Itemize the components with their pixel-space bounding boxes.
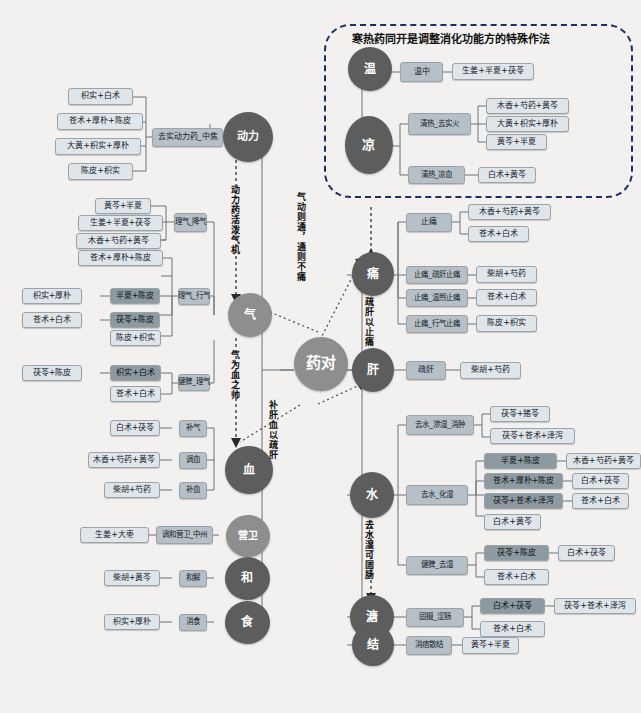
relation-label-dongli-qi: 动力药活泼气机 [230, 185, 239, 255]
leaf-box[interactable]: 苍术+厚朴+陈皮 [78, 250, 163, 266]
category-box-xiaoshi[interactable]: 消食 [179, 614, 207, 631]
category-box-qushui-huashi[interactable]: 去水_化湿 [406, 485, 468, 505]
category-box-xiaopi-sanjie[interactable]: 消痞散结 [406, 636, 452, 655]
node-wen[interactable]: 温 [348, 47, 392, 91]
category-box-qushui-shenshi[interactable]: 去水_渗湿_消肿 [406, 415, 474, 435]
leaf-box[interactable]: 白术+茯苓 [572, 473, 629, 489]
category-box-qingre-shihuo[interactable]: 清热_去实火 [408, 113, 471, 135]
leaf-box[interactable]: 苍术+白术 [110, 386, 161, 402]
leaf-box[interactable]: 黄芩+半夏 [462, 637, 519, 654]
category-box-buxue[interactable]: 补血 [179, 482, 207, 499]
special-method-group-title: 寒热药同开是调整消化功能方的特殊作法 [352, 30, 550, 46]
node-shi[interactable]: 食 [225, 601, 270, 644]
relation-label-shugan-zhitong: 疏肝以止痛 [364, 297, 373, 347]
node-qi[interactable]: 气 [228, 293, 272, 337]
leaf-box[interactable]: 生姜+半夏+茯苓 [78, 215, 163, 231]
category-box-hejie[interactable]: 和解 [179, 570, 207, 587]
leaf-box[interactable]: 陈皮+枳实 [68, 163, 133, 180]
leaf-box[interactable]: 茯苓+苍术+泽泻 [490, 428, 575, 444]
leaf-box[interactable]: 苍术+白术 [572, 493, 629, 509]
category-box-zhitong-shugan[interactable]: 止痛_疏肝止痛 [406, 266, 468, 284]
leaf-box[interactable]: 茯苓+苍术+泽泻 [484, 493, 563, 509]
category-box-gushe-sechang[interactable]: 固摄_涩肠 [406, 608, 464, 627]
leaf-box[interactable]: 木香+芍药+黄芩 [468, 204, 551, 220]
node-yingwei[interactable]: 营卫 [226, 515, 270, 557]
leaf-box[interactable]: 苍术+厚朴+陈皮 [484, 473, 563, 489]
category-box-jianpi-liqi[interactable]: 健脾_理气 [178, 374, 210, 391]
leaf-box[interactable]: 白术+黄芩 [484, 514, 541, 530]
leaf-box[interactable]: 白术+黄芩 [478, 167, 536, 183]
category-box-liqi-xingqi[interactable]: 理气_行气 [178, 288, 210, 305]
leaf-box[interactable]: 苍术+白术 [468, 226, 529, 242]
category-box-zhitong[interactable]: 止痛 [406, 213, 452, 232]
leaf-box[interactable]: 大黄+枳实+厚朴 [486, 116, 569, 132]
leaf-box[interactable]: 枳实+厚朴 [22, 288, 82, 304]
node-xue[interactable]: 血 [225, 446, 273, 494]
leaf-box[interactable]: 陈皮+枳实 [110, 330, 161, 346]
leaf-box[interactable]: 陈皮+枳实 [476, 315, 537, 332]
node-shui[interactable]: 水 [350, 472, 394, 518]
leaf-box[interactable]: 柴胡+芍药 [476, 266, 537, 283]
leaf-box[interactable]: 柴胡+芍药 [460, 362, 521, 379]
leaf-box[interactable]: 茯苓+猪苓 [490, 406, 550, 422]
leaf-box[interactable]: 半夏+陈皮 [110, 288, 160, 304]
leaf-box[interactable]: 茯苓+苍术+泽泻 [554, 598, 636, 614]
leaf-box[interactable]: 枳实+白术 [110, 365, 161, 381]
category-box-qushi-dongliyao[interactable]: 去实动力药_中焦 [152, 128, 223, 147]
relation-label-qidong-tong: 气动则通，通则不痛 [296, 192, 305, 282]
node-dongli[interactable]: 动力 [223, 112, 273, 162]
node-liang[interactable]: 凉 [345, 116, 393, 174]
node-jie[interactable]: 结 [352, 624, 394, 666]
leaf-box[interactable]: 黄芩+半夏 [486, 134, 547, 150]
leaf-box[interactable]: 木香+芍药+黄芩 [486, 98, 569, 114]
node-he[interactable]: 和 [225, 557, 270, 600]
leaf-box[interactable]: 苍术+白术 [22, 312, 82, 328]
leaf-box[interactable]: 木香+芍药+黄芩 [88, 452, 160, 468]
leaf-box[interactable]: 大黄+枳实+厚朴 [55, 138, 141, 155]
category-box-wenzhong[interactable]: 温中 [400, 62, 443, 82]
leaf-box[interactable]: 生姜+大枣 [80, 527, 149, 543]
leaf-box[interactable]: 枳实+厚朴 [104, 614, 160, 630]
leaf-box[interactable]: 黄芩+半夏 [95, 198, 151, 214]
leaf-box[interactable]: 柴胡+芍药 [104, 482, 160, 498]
leaf-box[interactable]: 茯苓+陈皮 [110, 312, 160, 328]
category-box-jianpi-qushi[interactable]: 健脾_去湿 [406, 556, 468, 575]
leaf-box[interactable]: 枳实+白术 [68, 88, 133, 105]
category-box-qingre-liangxue[interactable]: 清热_凉血 [408, 166, 465, 184]
leaf-box[interactable]: 柴胡+黄芩 [104, 570, 160, 586]
node-gan[interactable]: 肝 [352, 348, 394, 392]
category-box-buqi[interactable]: 补气 [179, 420, 207, 437]
leaf-box[interactable]: 茯苓+陈皮 [484, 545, 549, 561]
relation-label-qi-xue: 气为血之帅 [230, 350, 239, 400]
category-box-tiaoxue[interactable]: 调血 [179, 452, 207, 469]
node-tong[interactable]: 痛 [352, 252, 394, 296]
category-box-zhitong-wenxu[interactable]: 止痛_温煦止痛 [406, 289, 468, 307]
relation-label-qushui-guchang: 去水湿可固肠 [364, 520, 373, 580]
category-box-zhitong-xingqi[interactable]: 止痛_行气止痛 [406, 315, 468, 333]
leaf-box[interactable]: 茯苓+陈皮 [22, 365, 82, 381]
category-box-tiaohe-yingwei[interactable]: 调和营卫_中州 [156, 526, 213, 544]
category-box-shugan[interactable]: 疏肝 [406, 361, 446, 380]
leaf-box[interactable]: 木香+芍药+黄芩 [76, 233, 161, 249]
relation-label-bugan-shugan: 补肝血以疏肝 [268, 400, 277, 460]
leaf-box[interactable]: 白术+茯苓 [110, 420, 160, 436]
leaf-box[interactable]: 白术+茯苓 [480, 598, 545, 614]
leaf-box[interactable]: 木香+芍药+黄芩 [566, 453, 641, 469]
leaf-box[interactable]: 半夏+陈皮 [484, 453, 557, 469]
center-node-yaodui[interactable]: 药对 [294, 337, 348, 391]
leaf-box[interactable]: 苍术+白术 [484, 569, 549, 585]
leaf-box[interactable]: 苍术+白术 [476, 289, 537, 306]
diagram-canvas: 寒热药同开是调整消化功能方的特殊作法 药对 动力 气 血 营卫 和 食 温 凉 … [0, 0, 641, 713]
leaf-box[interactable]: 白术+茯苓 [558, 545, 615, 561]
leaf-box[interactable]: 生姜+半夏+茯苓 [452, 63, 534, 80]
category-box-liqi-jiangqi[interactable]: 理气_降气 [174, 213, 207, 232]
leaf-box[interactable]: 苍术+厚朴+陈皮 [57, 113, 143, 130]
leaf-box[interactable]: 苍术+白术 [480, 621, 545, 637]
